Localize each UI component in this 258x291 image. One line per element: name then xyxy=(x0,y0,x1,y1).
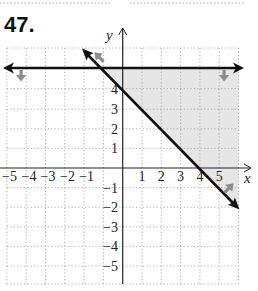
y-tick-label: −2 xyxy=(103,200,118,215)
up-right-hint-arrow-icon xyxy=(91,49,107,65)
x-tick-label: −2 xyxy=(60,169,75,184)
y-tick-label: −5 xyxy=(103,259,118,274)
x-tick-label: −5 xyxy=(2,169,17,184)
x-axis-label: x xyxy=(243,170,251,186)
y-tick-label: 1 xyxy=(111,141,118,156)
x-tick-label: −4 xyxy=(22,169,37,184)
down-hint-arrow-icon xyxy=(16,70,26,82)
y-axis-label: y xyxy=(104,27,113,43)
y-tick-labels: 4 3 2 1 −1 −2 −3 −4 −5 xyxy=(103,82,118,274)
x-tick-label: −1 xyxy=(79,169,94,184)
y-tick-label: −1 xyxy=(103,181,118,196)
x-tick-label: 1 xyxy=(139,169,146,184)
y-tick-label: −4 xyxy=(103,239,118,254)
x-tick-label: 3 xyxy=(177,169,184,184)
x-tick-label: −3 xyxy=(41,169,56,184)
y-tick-label: −3 xyxy=(103,220,118,235)
problem-number: 47. xyxy=(4,12,35,37)
x-tick-label: 2 xyxy=(158,169,165,184)
x-tick-label: 5 xyxy=(216,169,223,184)
y-tick-label: 3 xyxy=(111,102,118,117)
y-tick-label: 2 xyxy=(111,122,118,137)
inequality-graph-figure: 47. x y xyxy=(0,0,258,291)
